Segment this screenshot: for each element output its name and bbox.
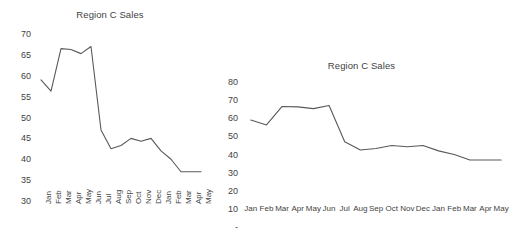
chart-region-c-sales-right: Region C Sales -1020304050607080 JanFebM…: [210, 48, 513, 242]
plot-area: [0, 0, 220, 242]
plot-area: [210, 48, 513, 242]
chart-region-c-sales-left: Region C Sales 303540455055606570 JanFeb…: [0, 0, 220, 242]
series-line: [251, 106, 501, 160]
series-line: [41, 47, 201, 172]
